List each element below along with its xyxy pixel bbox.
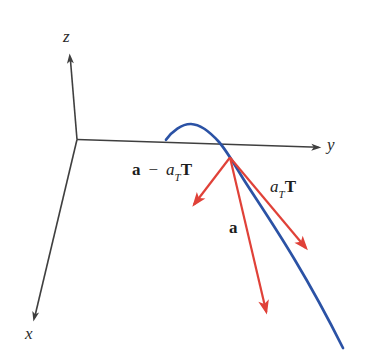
- unit-vector-T: T: [181, 160, 192, 179]
- space-curve: [166, 124, 343, 348]
- subscript-T: T: [279, 188, 285, 200]
- figure-canvas: z y x a−aTT aTT a: [0, 0, 365, 357]
- z-axis-label: z: [63, 28, 70, 45]
- normal-component-vector: [194, 158, 230, 205]
- x-axis-line: [35, 140, 77, 318]
- y-axis-line: [77, 140, 319, 148]
- coefficient-a: a: [270, 177, 279, 196]
- acceleration-arrowhead-icon: [258, 299, 272, 316]
- x-axis-label: x: [25, 325, 33, 342]
- subscript-T: T: [175, 171, 181, 183]
- x-axis-arrowhead-icon: [30, 311, 39, 322]
- tangential-component-label: aTT: [270, 178, 296, 195]
- unit-vector-T: T: [285, 177, 296, 196]
- normal-component-label: a−aTT: [132, 161, 192, 178]
- coefficient-a: a: [166, 160, 175, 179]
- y-axis-label: y: [327, 136, 335, 153]
- z-axis-line: [70, 57, 77, 140]
- minus-operator: −: [149, 160, 159, 179]
- acceleration-label: a: [229, 219, 238, 236]
- vector-a-term: a: [132, 160, 141, 179]
